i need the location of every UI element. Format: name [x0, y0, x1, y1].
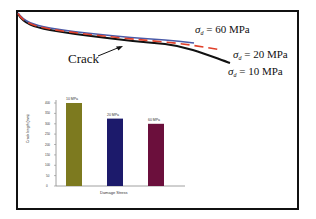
- bar-label-10mpa: 10 MPa: [66, 97, 78, 101]
- ytick-label: 100: [45, 163, 50, 167]
- ytick-label: 300: [45, 122, 50, 126]
- ytick-label: 50: [46, 174, 49, 178]
- ytick-label: 350: [45, 111, 50, 115]
- crack-arrow: [98, 47, 120, 56]
- ytick-label: 400: [45, 101, 50, 105]
- ytick-label: 200: [45, 143, 50, 147]
- curve-20mpa: [18, 14, 222, 51]
- bar-10mpa: [66, 103, 82, 186]
- ytick-label: 250: [45, 132, 50, 136]
- curve-10mpa: [18, 14, 230, 63]
- inset-ylabel: Crack length (mm): [26, 114, 30, 143]
- bar-20mpa: [107, 119, 123, 186]
- ytick-label: 0: [46, 184, 48, 188]
- legend-20mpa: σd = 20 MPa: [233, 48, 288, 61]
- bar-label-20mpa: 20 MPa: [107, 113, 119, 117]
- ytick-label: 150: [45, 153, 50, 157]
- legend-10mpa: σd = 10 MPa: [228, 65, 283, 78]
- bar-60mpa: [148, 124, 164, 186]
- inset-xlabel: Damage Stress: [100, 190, 128, 195]
- bar-label-60mpa: 60 MPa: [148, 118, 160, 122]
- crack-label: Crack: [68, 51, 99, 67]
- inset-bar-chart: [54, 100, 185, 186]
- legend-60mpa: σd = 60 MPa: [195, 23, 250, 36]
